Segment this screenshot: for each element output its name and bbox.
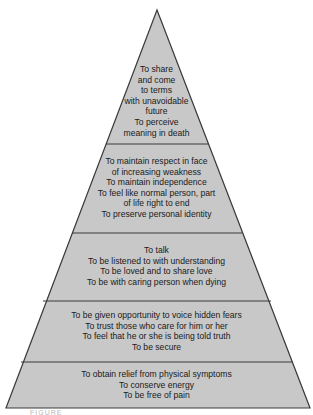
layer-line: To maintain respect in face xyxy=(0,156,313,167)
layer-line: To perceive xyxy=(0,117,313,128)
layer-5-self-actualization: To share and come to terms with unavoida… xyxy=(0,64,313,138)
layer-4-esteem: To maintain respect in face of increasin… xyxy=(0,156,313,220)
layer-line: To be loved and to share love xyxy=(0,266,313,277)
layer-line: To be listened to with understanding xyxy=(0,256,313,267)
layer-line: To trust those who care for him or her xyxy=(0,321,313,332)
layer-1-physiological: To obtain relief from physical symptoms … xyxy=(0,369,313,401)
layer-line: To feel that he or she is being told tru… xyxy=(0,331,313,342)
figure-caption: FIGURE xyxy=(30,409,62,415)
layer-line: to terms xyxy=(0,85,313,96)
layer-line: future xyxy=(0,106,313,117)
layer-line: of increasing weakness xyxy=(0,167,313,178)
layer-line: and come xyxy=(0,75,313,86)
layer-3-love-belonging: To talk To be listened to with understan… xyxy=(0,245,313,287)
layer-line: To talk xyxy=(0,245,313,256)
layer-line: To be with caring person when dying xyxy=(0,277,313,288)
layer-line: To share xyxy=(0,64,313,75)
layer-line: To feel like normal person, part xyxy=(0,188,313,199)
layer-line: To maintain independence xyxy=(0,177,313,188)
layer-line: To conserve energy xyxy=(0,380,313,391)
layer-line: To preserve personal identity xyxy=(0,209,313,220)
layer-line: with unavoidable xyxy=(0,96,313,107)
layer-2-safety: To be given opportunity to voice hidden … xyxy=(0,310,313,352)
layer-line: To be given opportunity to voice hidden … xyxy=(0,310,313,321)
layer-line: To be secure xyxy=(0,342,313,353)
layer-line: of life right to end xyxy=(0,198,313,209)
layer-line: meaning in death xyxy=(0,128,313,139)
layer-line: To obtain relief from physical symptoms xyxy=(0,369,313,380)
layer-line: To be free of pain xyxy=(0,390,313,401)
